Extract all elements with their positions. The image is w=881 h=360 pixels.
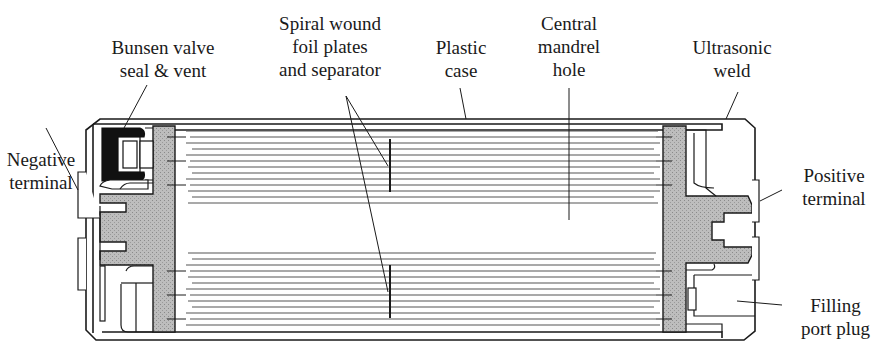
cell-cross-section xyxy=(0,0,881,360)
positive-terminal-plate xyxy=(752,180,759,222)
